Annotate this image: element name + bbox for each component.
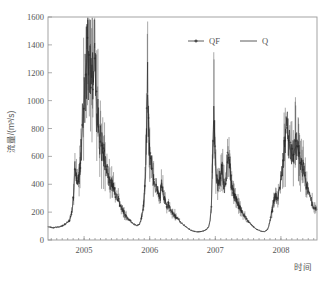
y-axis-title: 流量/(m³/s) [6, 111, 16, 154]
x-tick-label: 2008 [272, 245, 289, 255]
chart-figure: 0200400600800100012001400160020052006200… [0, 0, 332, 281]
x-tick-label: 2006 [141, 245, 158, 255]
y-tick-label: 800 [31, 124, 44, 134]
legend-label-qf[interactable]: QF [209, 36, 220, 46]
y-tick-label: 1400 [27, 40, 44, 50]
y-tick-label: 1000 [27, 96, 44, 106]
y-tick-label: 1200 [27, 68, 44, 78]
y-tick-label: 0 [40, 235, 44, 245]
y-tick-label: 200 [31, 207, 44, 217]
x-axis-title: 时间 [294, 262, 312, 272]
legend-label-q[interactable]: Q [262, 36, 268, 46]
x-tick-label: 2005 [76, 245, 93, 255]
x-tick-label: 2007 [207, 245, 224, 255]
discharge-time-series-chart: 0200400600800100012001400160020052006200… [0, 0, 332, 281]
y-tick-label: 400 [31, 179, 44, 189]
y-tick-label: 1600 [27, 12, 44, 22]
y-tick-label: 600 [31, 151, 44, 161]
